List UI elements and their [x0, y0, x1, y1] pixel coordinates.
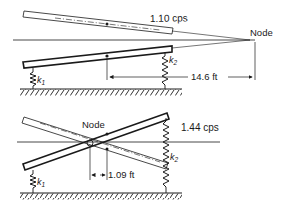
top-mode-diagram: 1.10 cps Node 14.6 ft k1 k2 — [13, 11, 273, 96]
bottom-mode-diagram: Node 1.44 cps 1.09 ft k1 k2 — [17, 113, 220, 200]
spring-k2 — [162, 52, 168, 89]
beam — [23, 46, 172, 68]
bottom-k1-label: k1 — [37, 177, 46, 188]
spring-k1 — [30, 170, 36, 193]
top-distance-label: 14.6 ft — [191, 71, 218, 82]
node-ray-upper — [172, 31, 250, 40]
distance-dimension — [107, 42, 255, 80]
top-node-label: Node — [250, 27, 273, 38]
ground — [20, 89, 182, 96]
two-mode-vibration-diagram: 1.10 cps Node 14.6 ft k1 k2 — [0, 0, 291, 209]
top-k1-label: k1 — [37, 75, 46, 86]
ground — [20, 193, 182, 200]
distance-dimension — [90, 146, 107, 180]
bottom-distance-label: 1.09 ft — [108, 169, 135, 180]
bottom-node-label: Node — [82, 119, 105, 130]
node-ray-lower — [172, 40, 250, 48]
bottom-mode-frequency-label: 1.44 cps — [181, 122, 219, 133]
top-mode-frequency-label: 1.10 cps — [150, 12, 188, 24]
spring-k2 — [163, 118, 169, 193]
top-k2-label: k2 — [169, 55, 178, 66]
bottom-k2-label: k2 — [170, 152, 179, 163]
spring-k1 — [30, 68, 36, 89]
